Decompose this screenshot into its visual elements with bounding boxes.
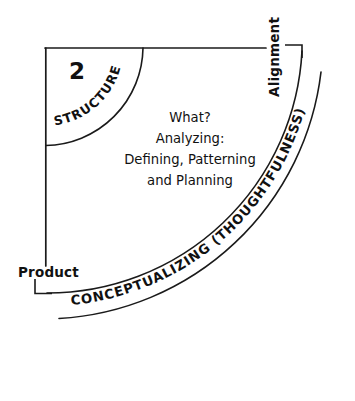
center-text-line-3: Defining, Patterning bbox=[124, 152, 256, 167]
structure-arc-label: STRUCTURE bbox=[53, 63, 124, 129]
structure-arc-label-text: STRUCTURE bbox=[53, 63, 124, 129]
product-bracket bbox=[35, 279, 52, 294]
stage-number: 2 bbox=[69, 58, 85, 84]
center-text-line-1: What? bbox=[169, 110, 211, 125]
center-description: What? Analyzing: Defining, Patterning an… bbox=[124, 110, 256, 188]
center-text-line-4: and Planning bbox=[147, 173, 233, 188]
alignment-bracket bbox=[285, 45, 302, 58]
conceptualizing-inner-arc bbox=[47, 51, 302, 293]
product-axis-label: Product bbox=[18, 264, 79, 280]
diagram-canvas: 2 STRUCTURE CONCEPTUALIZING (THOUGHTFULN… bbox=[0, 0, 355, 401]
alignment-axis-label: Alignment bbox=[266, 17, 282, 97]
concept-quadrant-diagram: 2 STRUCTURE CONCEPTUALIZING (THOUGHTFULN… bbox=[0, 0, 355, 401]
center-text-line-2: Analyzing: bbox=[156, 131, 225, 146]
